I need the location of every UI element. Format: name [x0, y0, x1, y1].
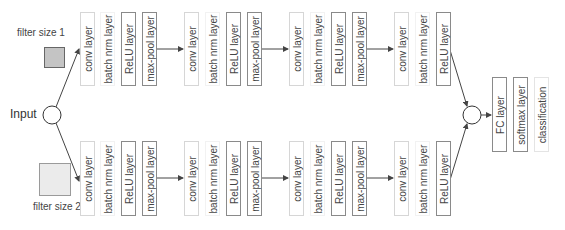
softmax-layer: softmax layer — [513, 77, 528, 152]
filter-size-2-swatch — [39, 163, 71, 196]
filter-size-2-label: filter size 2 — [33, 201, 81, 212]
bottom-g2-batchnorm-layer: batch nrm layer — [205, 141, 220, 216]
top-g4-batchnorm-layer: batch nrm layer — [415, 12, 430, 86]
top-g3-batchnorm-layer: batch nrm layer — [310, 12, 325, 86]
bottom-g2-maxpool-layer: max-pool layer — [247, 141, 262, 216]
filter-size-1-swatch — [44, 47, 65, 68]
bottom-g1-batchnorm-layer: batch nrm layer — [100, 141, 115, 216]
top-g2-maxpool-layer: max-pool layer — [247, 12, 262, 86]
bottom-g3-batchnorm-layer: batch nrm layer — [310, 141, 325, 216]
top-g4-conv-layer: conv layer — [394, 12, 409, 86]
top-g1-relu-layer: ReLU layer — [121, 12, 136, 86]
merge-node — [463, 106, 481, 124]
bottom-g3-maxpool-layer: max-pool layer — [352, 141, 367, 216]
bottom-g4-relu-layer: ReLU layer — [436, 141, 451, 216]
top-g4-relu-layer: ReLU layer — [436, 12, 451, 86]
top-g1-maxpool-layer: max-pool layer — [142, 12, 157, 86]
top-g1-conv-layer: conv layer — [80, 12, 95, 86]
bottom-g1-maxpool-layer: max-pool layer — [142, 141, 157, 216]
filter-size-1-label: filter size 1 — [17, 27, 65, 38]
bottom-g2-relu-layer: ReLU layer — [226, 141, 241, 216]
bottom-g3-conv-layer: conv layer — [289, 141, 304, 216]
top-g2-relu-layer: ReLU layer — [226, 12, 241, 86]
bottom-g1-conv-layer: conv layer — [80, 141, 95, 216]
bottom-g2-conv-layer: conv layer — [184, 141, 199, 216]
bottom-g4-batchnorm-layer: batch nrm layer — [415, 141, 430, 216]
bottom-g4-conv-layer: conv layer — [394, 141, 409, 216]
input-node — [43, 106, 61, 124]
fc-layer: FC layer — [492, 77, 507, 152]
top-g2-conv-layer: conv layer — [184, 12, 199, 86]
top-g3-conv-layer: conv layer — [289, 12, 304, 86]
bottom-g1-relu-layer: ReLU layer — [121, 141, 136, 216]
classification-layer: classification — [534, 77, 549, 152]
top-g2-batchnorm-layer: batch nrm layer — [205, 12, 220, 86]
top-g3-relu-layer: ReLU layer — [331, 12, 346, 86]
top-g1-batchnorm-layer: batch nrm layer — [100, 12, 115, 86]
bottom-g3-relu-layer: ReLU layer — [331, 141, 346, 216]
top-g3-maxpool-layer: max-pool layer — [352, 12, 367, 86]
input-label: Input — [10, 107, 37, 121]
